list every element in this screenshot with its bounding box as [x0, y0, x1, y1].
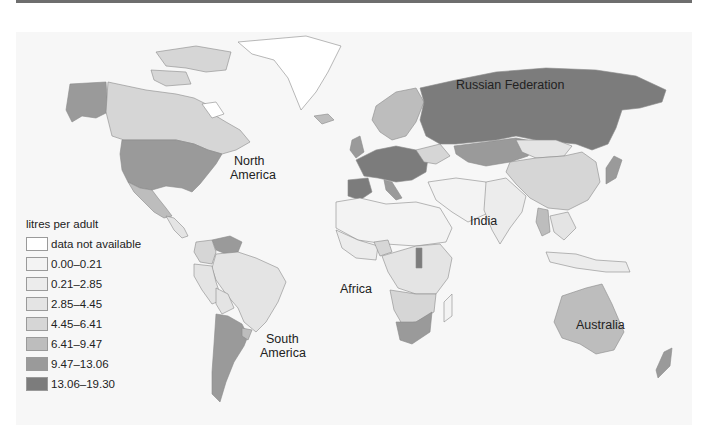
- country-iceland: [314, 114, 334, 124]
- country-new-zealand: [656, 348, 672, 378]
- label-india: India: [470, 214, 497, 228]
- legend-label: 0.21–2.85: [51, 278, 102, 290]
- country-uganda-rwanda: [416, 248, 422, 268]
- label-north-america-line2: America: [230, 168, 276, 182]
- legend-swatch: [26, 377, 48, 391]
- country-uk: [350, 136, 364, 158]
- legend-swatch: [26, 277, 48, 291]
- legend-label: 13.06–19.30: [51, 378, 115, 390]
- legend-label: 6.41–9.47: [51, 338, 102, 350]
- country-thailand: [536, 208, 550, 236]
- label-south-america-line1: South: [266, 332, 299, 346]
- legend-item: 4.45–6.41: [26, 314, 141, 334]
- legend-item: data not available: [26, 234, 141, 254]
- legend-item: 9.47–13.06: [26, 354, 141, 374]
- legend-item: 2.85–4.45: [26, 294, 141, 314]
- legend-swatch: [26, 297, 48, 311]
- legend-item: 0.21–2.85: [26, 274, 141, 294]
- legend-label: 4.45–6.41: [51, 318, 102, 330]
- region-indonesia: [546, 252, 630, 272]
- country-colombia: [194, 240, 216, 264]
- legend-item: 6.41–9.47: [26, 334, 141, 354]
- legend-label: 0.00–0.21: [51, 258, 102, 270]
- label-australia: Australia: [576, 318, 625, 332]
- country-japan: [606, 156, 622, 184]
- label-south-america-line2: America: [260, 346, 306, 360]
- legend-swatch: [26, 337, 48, 351]
- region-scandinavia: [372, 88, 424, 140]
- label-africa: Africa: [340, 282, 372, 296]
- label-russian-federation: Russian Federation: [456, 78, 564, 92]
- country-madagascar: [444, 294, 452, 322]
- legend-item: 0.00–0.21: [26, 254, 141, 274]
- country-argentina: [212, 314, 248, 402]
- legend-swatch: [26, 317, 48, 331]
- country-italy: [384, 180, 402, 200]
- region-central-america: [166, 216, 188, 238]
- region-se-asia: [550, 212, 576, 240]
- country-canada-islands: [156, 46, 231, 72]
- top-rule: [16, 0, 692, 3]
- legend-label: data not available: [51, 238, 141, 250]
- legend-swatch: [26, 257, 48, 271]
- country-spain-portugal: [348, 178, 372, 200]
- legend-label: 9.47–13.06: [51, 358, 109, 370]
- country-usa-alaska: [66, 82, 108, 122]
- country-venezuela: [212, 236, 242, 254]
- legend-title: litres per adult: [26, 218, 141, 230]
- map-legend: litres per adult data not available 0.00…: [26, 218, 141, 394]
- legend-label: 2.85–4.45: [51, 298, 102, 310]
- legend-swatch: [26, 357, 48, 371]
- legend-swatch: [26, 237, 48, 251]
- label-north-america-line1: North: [234, 154, 265, 168]
- legend-item: 13.06–19.30: [26, 374, 141, 394]
- country-greenland: [238, 36, 341, 110]
